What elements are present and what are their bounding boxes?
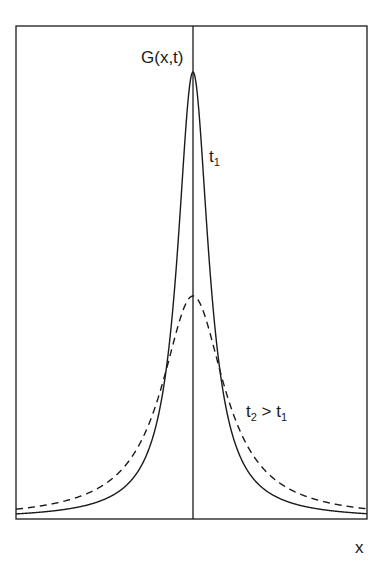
plot-frame <box>16 26 367 519</box>
x-axis-label: x <box>355 538 364 558</box>
curve-t1-solid <box>16 72 367 514</box>
curve-label-t2: t2 > t1 <box>246 402 287 423</box>
curve-label-t1: t1 <box>209 147 220 168</box>
chart-canvas <box>0 0 385 579</box>
curve-t2-dashed <box>16 296 367 509</box>
y-axis-label: G(x,t) <box>141 48 184 68</box>
